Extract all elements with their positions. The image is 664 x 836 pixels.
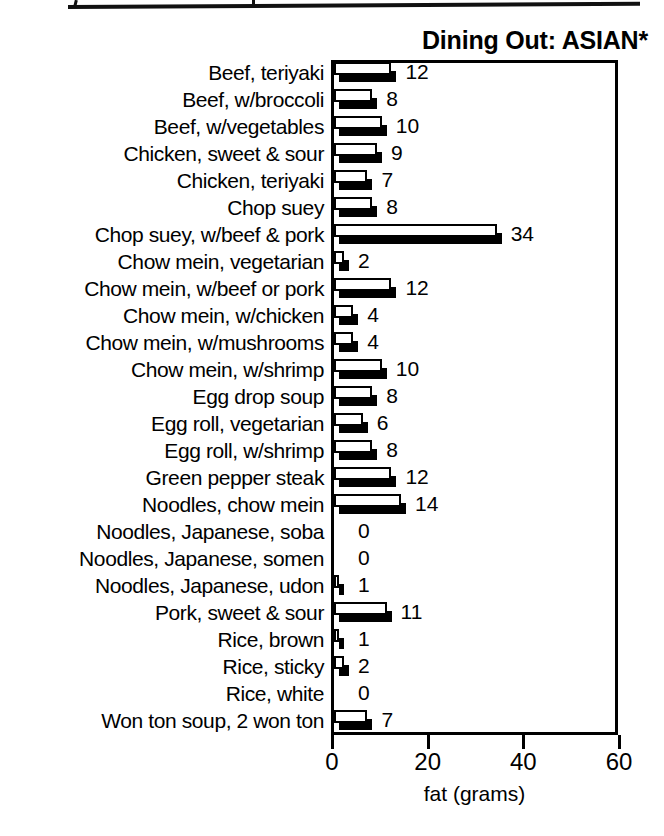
bar-front-face [334,116,382,129]
bar-row: Green pepper steak12 [0,465,664,492]
bar-row: Chicken, sweet & sour9 [0,141,664,168]
bar-row: Beef, w/vegetables10 [0,114,664,141]
bar-value-label: 2 [358,248,370,273]
bar-row: Egg roll, vegetarian6 [0,411,664,438]
x-axis-tick-label: 0 [302,748,362,776]
category-label: Chow mein, vegetarian [0,249,324,274]
category-label: Chow mein, w/chicken [0,303,324,328]
bar [334,332,360,355]
bar-front-face [334,494,401,507]
bar [334,629,346,652]
x-axis-ticks [331,735,621,749]
bar-value-label: 14 [415,491,438,516]
bar-value-label: 6 [377,410,389,435]
bar-value-label: 1 [358,626,370,651]
bar-front-face [334,332,353,345]
bar-row: Noodles, chow mein14 [0,492,664,519]
bar-row: Chow mein, w/shrimp10 [0,357,664,384]
chart-title: Dining Out: ASIAN* [0,26,648,55]
bar-depth-shadow [339,638,344,649]
category-label: Noodles, Japanese, udon [0,573,324,598]
bar [334,251,351,274]
x-axis-tick-label: 60 [589,748,649,776]
bar-value-label: 0 [358,545,370,570]
bar [334,710,374,733]
bar [334,440,379,463]
bar-front-face [334,278,391,291]
bar-value-label: 11 [401,599,423,624]
bar-value-label: 12 [405,275,428,300]
category-label: Chicken, sweet & sour [0,141,324,166]
bar-value-label: 12 [405,464,428,489]
bar-value-label: 8 [386,194,398,219]
category-label: Noodles, Japanese, somen [0,546,324,571]
bar-front-face [334,602,387,615]
bar-value-label: 10 [396,356,419,381]
bar-row: Chow mein, w/beef or pork12 [0,276,664,303]
bar-front-face [334,89,372,102]
category-label: Rice, white [0,681,324,706]
bar-value-label: 8 [386,437,398,462]
bar-row: Noodles, Japanese, somen0 [0,546,664,573]
bar-value-label: 8 [386,383,398,408]
bar [334,467,398,490]
bar [334,224,504,247]
bar-row: Won ton soup, 2 won ton7 [0,708,664,735]
bar-front-face [334,359,382,372]
bar-front-face [334,575,339,588]
bar [334,386,379,409]
bar-row: Chow mein, vegetarian2 [0,249,664,276]
category-label: Chop suey [0,195,324,220]
category-label: Pork, sweet & sour [0,600,324,625]
bar-front-face [334,62,391,75]
bar [334,656,351,679]
x-axis-tick-labels: 0204060 [0,748,664,778]
bar [334,170,374,193]
category-label: Chow mein, w/shrimp [0,357,324,382]
category-label: Chicken, teriyaki [0,168,324,193]
bar-row: Rice, white0 [0,681,664,708]
bar-row: Noodles, Japanese, udon1 [0,573,664,600]
bar-row: Chow mein, w/mushrooms4 [0,330,664,357]
bar [334,305,360,328]
bar-value-label: 4 [367,302,379,327]
bar-front-face [334,197,372,210]
bar-value-label: 4 [367,329,379,354]
category-label: Noodles, Japanese, soba [0,519,324,544]
bar [334,602,394,625]
bar-depth-shadow [339,584,344,595]
x-axis-tick [522,735,525,749]
bar-value-label: 34 [511,221,534,246]
bar-value-label: 2 [358,653,370,678]
bar-front-face [334,413,363,426]
bar-front-face [334,710,367,723]
category-label: Beef, teriyaki [0,60,324,85]
category-label: Noodles, chow mein [0,492,324,517]
bar-value-label: 0 [358,680,370,705]
x-axis-tick [331,735,334,749]
x-axis-tick [618,735,621,749]
bar [334,359,389,382]
bar-value-label: 9 [391,140,403,165]
bar-value-label: 8 [386,86,398,111]
bar-row: Chicken, teriyaki7 [0,168,664,195]
category-label: Beef, w/broccoli [0,87,324,112]
bar-value-label: 0 [358,518,370,543]
bar [334,278,398,301]
category-label: Egg roll, vegetarian [0,411,324,436]
bar-front-face [334,251,344,264]
bar-value-label: 10 [396,113,419,138]
bar-row: Noodles, Japanese, soba0 [0,519,664,546]
bar-value-label: 12 [405,59,428,84]
cropped-frame-remnant-line [68,2,640,9]
bar [334,197,379,220]
x-axis-title: fat (grams) [331,781,618,806]
bar-front-face [334,467,391,480]
x-axis-tick-label: 40 [493,748,553,776]
bar-row: Rice, brown1 [0,627,664,654]
bar-row: Chop suey, w/beef & pork34 [0,222,664,249]
category-label: Egg roll, w/shrimp [0,438,324,463]
bar [334,494,408,517]
bar-front-face [334,143,377,156]
bar-front-face [334,386,372,399]
